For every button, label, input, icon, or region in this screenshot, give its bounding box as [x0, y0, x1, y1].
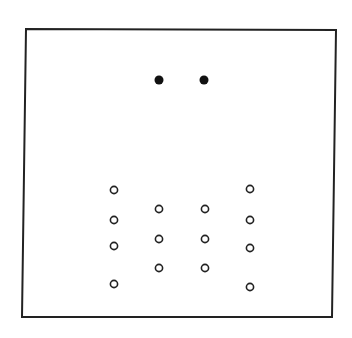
filled-dot-icon: [200, 76, 209, 85]
dot-pattern-figure: [0, 0, 352, 338]
filled-dot-icon: [155, 76, 164, 85]
background: [0, 0, 352, 338]
